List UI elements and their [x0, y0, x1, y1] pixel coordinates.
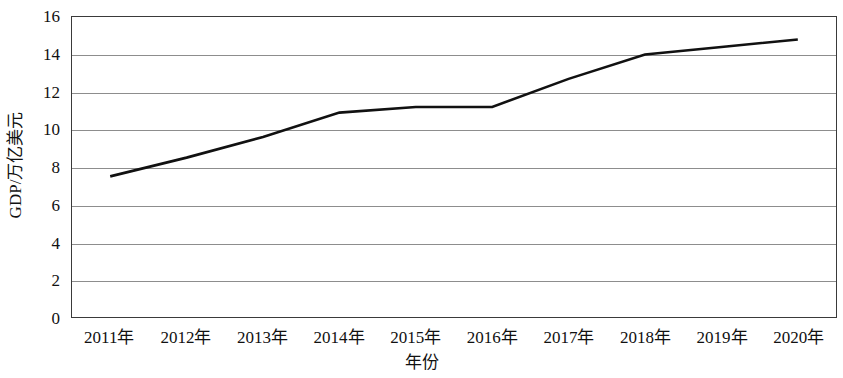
gridline: [72, 130, 836, 131]
gridline: [72, 206, 836, 207]
x-tick-label: 2012年: [160, 326, 211, 350]
x-axis-title: 年份: [0, 352, 843, 374]
x-tick-label: 2017年: [543, 326, 594, 350]
data-series-line: [72, 17, 836, 317]
plot-area: [71, 16, 837, 318]
y-tick-label: 0: [26, 310, 66, 327]
gridline: [72, 168, 836, 169]
gridline: [72, 281, 836, 282]
gdp-line-chart: GDP/万亿美元 1614121086420 2011年2012年2013年20…: [0, 0, 843, 378]
gridline: [72, 55, 836, 56]
y-tick-label: 12: [26, 83, 66, 100]
x-tick-label: 2014年: [314, 326, 365, 350]
y-tick-label: 8: [26, 159, 66, 176]
x-tick-label: 2016年: [467, 326, 518, 350]
x-axis-tick-labels: 2011年2012年2013年2014年2015年2016年2017年2018年…: [0, 326, 843, 352]
y-tick-label: 2: [26, 272, 66, 289]
x-tick-label: 2011年: [84, 326, 134, 350]
x-tick-label: 2019年: [697, 326, 748, 350]
series-polyline: [110, 40, 798, 177]
y-tick-label: 6: [26, 196, 66, 213]
y-axis-title: GDP/万亿美元: [0, 0, 26, 330]
y-tick-label: 4: [26, 234, 66, 251]
y-tick-label: 14: [26, 45, 66, 62]
x-tick-label: 2018年: [620, 326, 671, 350]
x-tick-label: 2015年: [390, 326, 441, 350]
y-tick-label: 16: [26, 8, 66, 25]
gridline: [72, 244, 836, 245]
y-tick-label: 10: [26, 121, 66, 138]
y-axis-tick-labels: 1614121086420: [26, 0, 66, 330]
gridline: [72, 93, 836, 94]
x-tick-label: 2013年: [237, 326, 288, 350]
x-tick-label: 2020年: [773, 326, 824, 350]
